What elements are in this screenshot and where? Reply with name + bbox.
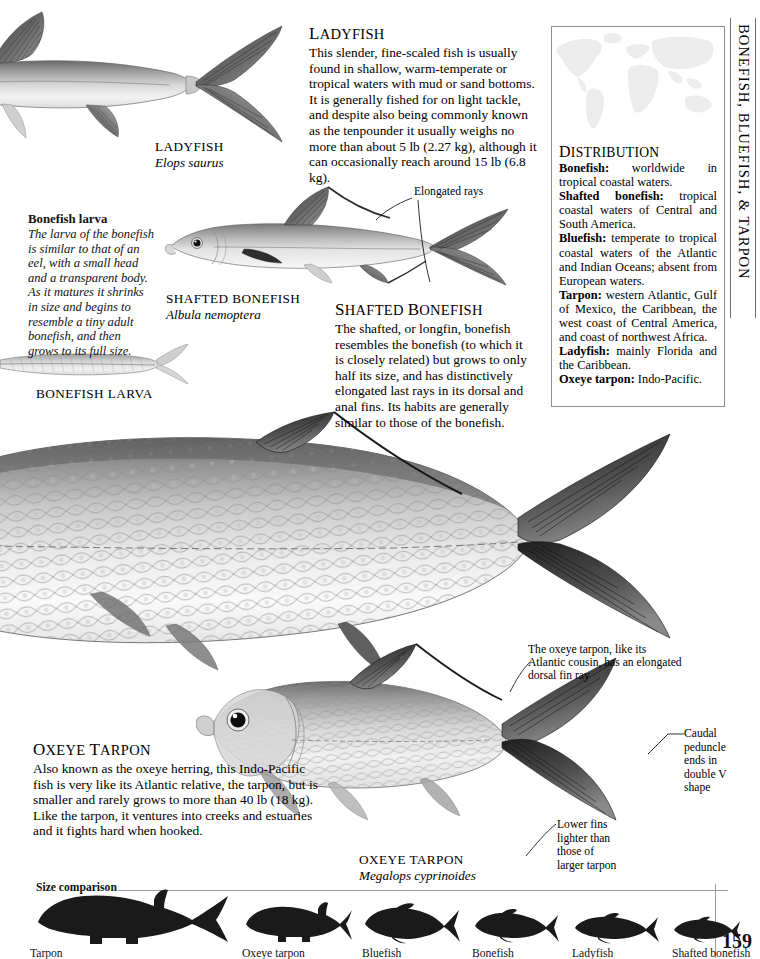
silhouette-bluefish: Bluefish xyxy=(362,902,462,944)
distribution-title: DISTRIBUTION xyxy=(559,143,717,161)
distribution-entry: Oxeye tarpon: Indo-Pacific. xyxy=(559,372,717,386)
shafted-bonefish-caption-latin: Albula nemoptera xyxy=(166,307,300,323)
distribution-entry: Ladyfish: mainly Florida and the Caribbe… xyxy=(559,344,717,372)
silhouette-label: Bluefish xyxy=(362,947,401,959)
silhouette-bonefish: Bonefish xyxy=(472,908,560,944)
silhouette-label: Tarpon xyxy=(30,947,63,959)
silhouette-label: Ladyfish xyxy=(572,947,613,959)
oxeye-tarpon-section: OXEYE TARPON Also known as the oxeye her… xyxy=(33,740,325,839)
shafted-bonefish-body: The shafted, or longfin, bonefish resemb… xyxy=(335,321,533,430)
annotation-lower-fins: Lower fins lighter than those of larger … xyxy=(557,818,623,872)
oxeye-tarpon-caption-name: OXEYE TARPON xyxy=(359,852,476,868)
running-head: BONEFISH, BLUEFISH, & TARPON xyxy=(728,18,758,318)
silhouette-label: Oxeye tarpon xyxy=(242,947,305,959)
annotation-elongated-rays: Elongated rays xyxy=(414,185,483,198)
distribution-entry: Tarpon: western Atlantic, Gulf of Mexico… xyxy=(559,288,717,344)
shafted-bonefish-heading: SHAFTED BONEFISH xyxy=(335,300,533,320)
ladyfish-caption-name: LADYFISH xyxy=(155,139,224,155)
distribution-entry: Bonefish: worldwide in tropical coastal … xyxy=(559,161,717,189)
silhouette-oxeye-tarpon: Oxeye tarpon xyxy=(242,900,354,944)
shafted-bonefish-caption-name: SHAFTED BONEFISH xyxy=(166,291,300,307)
bonefish-larva-note: Bonefish larva The larva of the bonefish… xyxy=(28,212,154,358)
oxeye-tarpon-caption: OXEYE TARPON Megalops cyprinoides xyxy=(359,852,476,884)
book-page: LADYFISH This slender, fine-scaled fish … xyxy=(0,0,760,959)
running-head-rule-left xyxy=(730,18,731,318)
bonefish-larva-title: Bonefish larva xyxy=(28,212,154,227)
bonefish-larva-caption: BONEFISH LARVA xyxy=(36,386,153,402)
silhouette-label: Bonefish xyxy=(472,947,514,959)
ladyfish-section: LADYFISH This slender, fine-scaled fish … xyxy=(309,24,541,185)
running-head-rule-right xyxy=(755,18,756,318)
ladyfish-illustration xyxy=(0,6,295,156)
bonefish-larva-caption-name: BONEFISH LARVA xyxy=(36,386,153,402)
size-comparison-row: Tarpon Oxeye tarpon Bluefish Bonefish xyxy=(24,896,736,958)
distribution-map xyxy=(552,27,724,140)
annotation-dorsal-fin-ray: The oxeye tarpon, like its Atlantic cous… xyxy=(528,643,684,683)
annotation-caudal-peduncle: Caudal peduncle ends in double V shape xyxy=(684,727,740,795)
running-head-text: BONEFISH, BLUEFISH, & TARPON xyxy=(735,24,752,280)
shafted-bonefish-illustration xyxy=(164,185,514,290)
ladyfish-heading: LADYFISH xyxy=(309,24,541,44)
silhouette-tarpon: Tarpon xyxy=(30,888,240,944)
shafted-bonefish-caption: SHAFTED BONEFISH Albula nemoptera xyxy=(166,291,300,323)
oxeye-tarpon-caption-latin: Megalops cyprinoides xyxy=(359,868,476,884)
shafted-bonefish-section: SHAFTED BONEFISH The shafted, or longfin… xyxy=(335,300,533,430)
ladyfish-body: This slender, fine-scaled fish is usuall… xyxy=(309,45,541,185)
distribution-entry: Bluefish: temperate to tropical coastal … xyxy=(559,231,717,287)
ladyfish-caption: LADYFISH Elops saurus xyxy=(155,139,224,171)
ladyfish-caption-latin: Elops saurus xyxy=(155,155,224,171)
distribution-entry: Shafted bonefish: tropical coastal water… xyxy=(559,189,717,231)
bonefish-larva-body: The larva of the bonefish is similar to … xyxy=(28,227,154,358)
oxeye-tarpon-body: Also known as the oxeye herring, this In… xyxy=(33,761,325,839)
distribution-panel: DISTRIBUTION Bonefish: worldwide in trop… xyxy=(551,26,725,407)
silhouette-ladyfish: Ladyfish xyxy=(572,912,660,944)
page-number: 159 xyxy=(722,930,752,953)
oxeye-tarpon-heading: OXEYE TARPON xyxy=(33,740,325,760)
distribution-text: DISTRIBUTION Bonefish: worldwide in trop… xyxy=(552,140,724,387)
